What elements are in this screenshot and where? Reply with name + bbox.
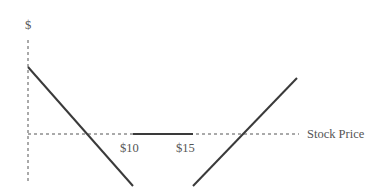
strike-label-15: $15 xyxy=(176,142,195,155)
x-axis-label: Stock Price xyxy=(307,128,364,141)
y-axis-label: $ xyxy=(25,19,31,32)
payoff-left-line xyxy=(28,67,133,186)
payoff-diagram xyxy=(0,0,387,195)
payoff-right-line xyxy=(193,78,297,186)
strike-label-10: $10 xyxy=(120,142,139,155)
